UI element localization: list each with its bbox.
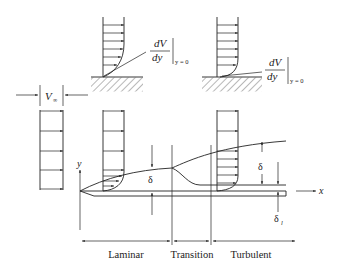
turbulent-gradient-label: dV dy y = 0 bbox=[265, 56, 303, 84]
wall-hatch-right bbox=[202, 78, 262, 92]
viscous-sublayer-edge bbox=[172, 168, 286, 185]
freestream-subscript: ∞ bbox=[53, 97, 57, 103]
boundary-layer-edge bbox=[80, 141, 286, 191]
y-axis-label: y bbox=[76, 158, 82, 169]
x-axis-label: x bbox=[318, 185, 324, 196]
turbulent-profile-arrows bbox=[217, 25, 238, 65]
gradient-numerator: dV bbox=[154, 37, 168, 49]
wall-hatch-left bbox=[91, 78, 143, 92]
gradient-numerator: dV bbox=[269, 56, 283, 68]
turbulent-thickness-annotation: δ bbox=[258, 142, 263, 184]
gradient-denominator: dy bbox=[152, 51, 163, 63]
uniform-freestream-profile bbox=[40, 110, 63, 190]
region-label-laminar: Laminar bbox=[108, 249, 144, 260]
laminar-delta: δ bbox=[148, 174, 153, 185]
gradient-subscript: y = 0 bbox=[175, 58, 188, 65]
sublayer-subscript: l bbox=[281, 219, 283, 226]
laminar-profile-detail bbox=[91, 17, 146, 92]
gradient-subscript: y = 0 bbox=[290, 77, 303, 84]
turbulent-delta: δ bbox=[258, 161, 263, 172]
freestream-symbol: V bbox=[45, 90, 53, 102]
region-label-turbulent: Turbulent bbox=[230, 249, 271, 260]
turbulent-profile-detail bbox=[202, 17, 262, 92]
sublayer-thickness-annotation: δ l bbox=[274, 162, 283, 226]
gradient-denominator: dy bbox=[267, 70, 278, 82]
turbulent-tangent-line bbox=[222, 72, 262, 76]
laminar-profile-on-plate bbox=[103, 110, 124, 191]
flat-plate bbox=[80, 191, 286, 196]
laminar-gradient-label: dV dy y = 0 bbox=[150, 37, 188, 65]
x-axis: x bbox=[296, 185, 324, 196]
laminar-tangent-line bbox=[104, 52, 146, 76]
freestream-velocity-label: V ∞ bbox=[16, 85, 88, 106]
y-axis: y bbox=[76, 158, 82, 230]
sublayer-delta: δ bbox=[274, 213, 279, 224]
laminar-thickness-annotation: δ bbox=[148, 145, 153, 215]
boundary-layer-diagram: dV dy y = 0 dV dy y = 0 V ∞ bbox=[0, 0, 340, 263]
region-label-transition: Transition bbox=[171, 249, 215, 260]
